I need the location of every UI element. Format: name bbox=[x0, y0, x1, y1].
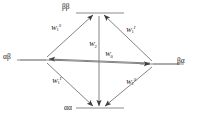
state-level-lines bbox=[17, 13, 184, 108]
rate-subscript: 0 bbox=[111, 54, 113, 59]
rate-base: W bbox=[126, 78, 132, 86]
rate-label-w1i-top-right: W1I bbox=[126, 26, 135, 35]
rate-label-w2: W2 bbox=[89, 41, 97, 49]
rate-superscript: I bbox=[134, 25, 136, 30]
rate-base: W bbox=[89, 40, 95, 48]
state-label-ba: βα bbox=[177, 57, 185, 65]
rate-superscript: I bbox=[60, 76, 62, 81]
rate-base: W bbox=[52, 77, 58, 85]
rate-label-w1s-bottom-right: W1S bbox=[126, 78, 136, 87]
rate-base: W bbox=[51, 24, 57, 32]
diagram-canvas: ββ αβ βα αα W1S W1I W1I W1S W2 W0 bbox=[0, 0, 198, 117]
rate-superscript: S bbox=[134, 77, 136, 82]
rate-subscript: 2 bbox=[95, 44, 97, 49]
state-label-bb: ββ bbox=[62, 3, 70, 11]
transition-arrows bbox=[47, 15, 152, 106]
rate-label-w1i-bottom-left: W1I bbox=[52, 77, 61, 86]
state-label-ab: αβ bbox=[3, 53, 11, 61]
state-label-aa: αα bbox=[64, 104, 72, 112]
diagram-graphic bbox=[0, 0, 198, 117]
rate-superscript: S bbox=[59, 23, 61, 28]
rate-label-w0: W0 bbox=[105, 51, 113, 59]
rate-label-w1s-top-left: W1S bbox=[51, 24, 61, 33]
rate-base: W bbox=[105, 50, 111, 58]
arrow-w1s-top-left bbox=[47, 15, 93, 57]
rate-base: W bbox=[126, 26, 132, 34]
